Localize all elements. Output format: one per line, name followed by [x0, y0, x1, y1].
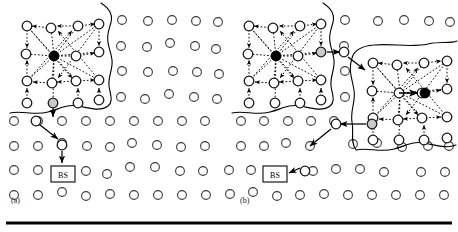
panel-b-left-cluster-head: [271, 51, 281, 61]
panel-a-cluster-nodes: [21, 19, 104, 108]
panel-b-right-cluster-head: [420, 88, 430, 98]
panel-a-cluster-head: [49, 51, 59, 61]
panel-a-base-station: BS: [51, 166, 75, 182]
panel-b-label: (b): [240, 196, 249, 205]
panel-a-label: (a): [11, 196, 20, 205]
panel-b-relay-node-2: [300, 166, 310, 176]
panel-b-left-cluster-nodes: [243, 19, 326, 108]
panel-b-relay-path: [289, 52, 366, 173]
panel-a-relay-path: [40, 108, 62, 163]
panel-b-left-cluster-links: [248, 24, 321, 103]
network-diagram: BS: [0, 0, 458, 232]
panel-a-relay-node-1: [31, 116, 41, 126]
panel-b-base-station: BS: [263, 166, 287, 182]
panel-a-relay-node-2: [57, 140, 67, 150]
panel-b-right-cluster-links: [372, 61, 447, 140]
panel-b-right-gateway-node: [367, 119, 377, 129]
panel-b-bs-label: BS: [270, 171, 280, 180]
panel-a-cluster-links: [26, 24, 99, 103]
panel-a-gateway-node: [48, 98, 58, 108]
panel-b-relay-node-1: [331, 119, 341, 129]
panel-a-bs-label: BS: [58, 171, 68, 180]
figure-root: BS: [0, 0, 458, 232]
panel-b-relay-node-3: [339, 47, 349, 57]
panel-b-right-cluster-nodes: [367, 56, 452, 145]
panel-b-left-gateway-node: [316, 47, 326, 57]
